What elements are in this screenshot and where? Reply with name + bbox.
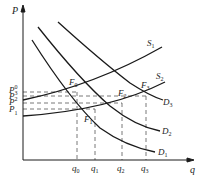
label-q3: q3 xyxy=(141,163,149,174)
label-s2: S2 xyxy=(156,71,164,82)
label-d1: D1 xyxy=(157,147,168,158)
price-labels: P0 P3 P2 P1 xyxy=(8,84,18,116)
label-q1: q1 xyxy=(91,163,99,174)
axes xyxy=(21,5,194,162)
x-axis-arrow-icon xyxy=(187,158,194,162)
curve-d2 xyxy=(38,27,160,131)
label-q0: q0 xyxy=(72,163,80,174)
label-f1: F1 xyxy=(83,114,93,125)
label-d2: D2 xyxy=(161,126,172,137)
guide-lines xyxy=(23,92,146,160)
supply-demand-diagram: P q P0 P3 P2 P1 q0 q1 q2 q3 S1 S2 D1 D2 … xyxy=(0,0,201,180)
label-p1: P1 xyxy=(8,104,18,116)
y-axis-arrow-icon xyxy=(21,5,25,12)
label-f0: F0 xyxy=(68,77,78,88)
quantity-labels: q0 q1 q2 q3 xyxy=(72,163,149,174)
label-q2: q2 xyxy=(117,163,125,174)
y-axis-label: P xyxy=(11,5,18,16)
label-f2: F2 xyxy=(117,88,127,99)
label-d3: D3 xyxy=(162,97,173,108)
curve-labels: S1 S2 D1 D2 D3 xyxy=(147,38,173,158)
label-f3: F3 xyxy=(140,80,150,91)
x-axis-label: q xyxy=(190,164,195,175)
label-s1: S1 xyxy=(147,38,155,49)
